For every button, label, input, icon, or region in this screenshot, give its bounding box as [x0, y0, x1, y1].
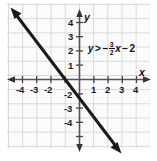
y-tick-label-2: 2: [68, 46, 73, 56]
y-tick-label--2: -2: [64, 90, 72, 100]
y-axis-arrow-down: [76, 144, 82, 152]
x-axis-arrow-left: [7, 76, 15, 82]
x-axis-label: x: [139, 67, 145, 78]
y-axis-arrow-up: [76, 9, 82, 17]
graph-figure: -4 -3 -2 1 2 3 4 4 3 2 1 -2 -3 -4 y x y …: [0, 0, 157, 161]
y-axis-label: y: [84, 12, 90, 23]
y-tick-label--4: -4: [64, 118, 72, 128]
x-tick-label-4: 4: [133, 85, 138, 95]
x-tick-label-1: 1: [91, 85, 96, 95]
slope-denominator: 2: [109, 48, 115, 56]
slope-numerator: 3: [109, 41, 115, 48]
inequality-symbol: >: [95, 44, 101, 54]
inequality-annotation: y > − 3 2 x − 2: [88, 41, 135, 57]
y-tick-label-1: 1: [68, 61, 73, 71]
x-tick-label-2: 2: [105, 85, 110, 95]
x-tick-label--2: -2: [44, 85, 52, 95]
constant-operator: −: [122, 44, 128, 54]
boundary-line: [14, 12, 118, 149]
slope-fraction: 3 2: [109, 41, 115, 57]
y-tick-label-4: 4: [68, 18, 73, 28]
slope-minus-sign: −: [102, 44, 108, 54]
x-tick-label-3: 3: [119, 85, 124, 95]
y-tick-label--3: -3: [64, 104, 72, 114]
slope-variable: x: [115, 44, 121, 54]
constant-value: 2: [130, 44, 136, 54]
x-tick-label--3: -3: [30, 85, 38, 95]
x-tick-label--4: -4: [16, 85, 24, 95]
coordinate-plane: [0, 0, 157, 161]
inequality-variable: y: [88, 44, 94, 54]
y-tick-label-3: 3: [68, 32, 73, 42]
